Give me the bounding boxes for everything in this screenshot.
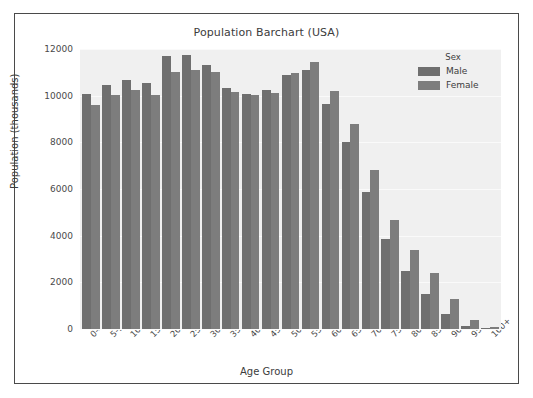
x-tick-label: 100+ xyxy=(489,332,496,339)
bar-male[interactable] xyxy=(302,70,311,329)
x-tick-label: 70-74 xyxy=(369,332,376,339)
y-tick-label: 0 xyxy=(29,324,73,334)
bar-group xyxy=(380,49,400,329)
y-tick-label: 4000 xyxy=(29,231,73,241)
bar-male[interactable] xyxy=(421,294,430,329)
bar-male[interactable] xyxy=(262,90,271,329)
y-axis-label: Population (thousands) xyxy=(9,74,20,189)
figure-panel: Population Barchart (USA) Population (th… xyxy=(14,13,519,384)
bar-female[interactable] xyxy=(390,220,399,329)
gridline xyxy=(80,329,501,330)
bar-male[interactable] xyxy=(441,314,450,329)
bar-group xyxy=(101,49,121,329)
bar-group xyxy=(360,49,380,329)
legend-swatch-female xyxy=(418,81,440,90)
x-tick-label: 80-84 xyxy=(409,332,416,339)
x-tick-label: 40-44 xyxy=(248,332,255,339)
x-tick-label: 50-54 xyxy=(289,332,296,339)
bar-male[interactable] xyxy=(282,75,291,329)
bar-female[interactable] xyxy=(231,92,240,329)
bar-male[interactable] xyxy=(362,192,371,329)
bar-male[interactable] xyxy=(461,326,470,330)
bar-male[interactable] xyxy=(242,94,251,329)
chart-title: Population Barchart (USA) xyxy=(15,26,518,39)
x-tick-label: 65-69 xyxy=(349,332,356,339)
x-tick-label: 35-39 xyxy=(228,332,235,339)
bar-male[interactable] xyxy=(342,142,351,329)
x-tick-label: 85-89 xyxy=(429,332,436,339)
bar-group xyxy=(281,49,301,329)
bar-male[interactable] xyxy=(202,65,211,329)
bar-group xyxy=(201,49,221,329)
legend-item-female[interactable]: Female xyxy=(418,80,504,90)
bar-group xyxy=(241,49,261,329)
x-tick-label: 10-14 xyxy=(128,332,135,339)
x-tick-label: 95-99 xyxy=(469,332,476,339)
bar-female[interactable] xyxy=(330,91,339,329)
x-tick-label: 25-29 xyxy=(188,332,195,339)
legend-item-male[interactable]: Male xyxy=(418,66,504,76)
x-tick-label: 55-59 xyxy=(309,332,316,339)
bar-female[interactable] xyxy=(490,327,499,329)
x-tick-label: 0-4 xyxy=(88,332,95,339)
bar-female[interactable] xyxy=(291,73,300,329)
bar-female[interactable] xyxy=(91,105,100,329)
bar-male[interactable] xyxy=(481,328,490,329)
x-axis-label: Age Group xyxy=(15,366,518,377)
bar-female[interactable] xyxy=(211,72,220,329)
x-tick-label: 75-79 xyxy=(389,332,396,339)
legend-title: Sex xyxy=(418,52,504,62)
bar-female[interactable] xyxy=(191,70,200,329)
bar-female[interactable] xyxy=(450,299,459,329)
bar-female[interactable] xyxy=(410,250,419,329)
x-tick-label: 60-64 xyxy=(329,332,336,339)
bar-group xyxy=(320,49,340,329)
bar-male[interactable] xyxy=(401,271,410,329)
x-tick-label: 5-9 xyxy=(108,332,115,339)
bar-female[interactable] xyxy=(370,170,379,329)
bar-group xyxy=(300,49,320,329)
bar-male[interactable] xyxy=(142,83,151,329)
bar-female[interactable] xyxy=(251,95,260,330)
bar-female[interactable] xyxy=(271,93,280,329)
bar-male[interactable] xyxy=(222,88,231,329)
bar-group xyxy=(181,49,201,329)
legend-label: Male xyxy=(446,66,467,76)
bar-group xyxy=(161,49,181,329)
x-tick-label: 90-94 xyxy=(449,332,456,339)
bar-group xyxy=(81,49,101,329)
bar-female[interactable] xyxy=(111,95,120,329)
bar-group xyxy=(121,49,141,329)
legend-swatch-male xyxy=(418,67,440,76)
bar-group xyxy=(221,49,241,329)
y-tick-label: 10000 xyxy=(29,91,73,101)
y-tick-label: 2000 xyxy=(29,277,73,287)
bar-female[interactable] xyxy=(350,124,359,329)
y-tick-label: 8000 xyxy=(29,137,73,147)
bar-female[interactable] xyxy=(131,90,140,329)
bar-female[interactable] xyxy=(430,273,439,329)
x-tick-label: 45-49 xyxy=(268,332,275,339)
bar-male[interactable] xyxy=(162,56,171,329)
bar-male[interactable] xyxy=(122,80,131,329)
bar-male[interactable] xyxy=(381,239,390,329)
legend: Sex MaleFemale xyxy=(418,52,504,94)
bar-female[interactable] xyxy=(310,62,319,329)
legend-entries: MaleFemale xyxy=(418,66,504,90)
legend-label: Female xyxy=(446,80,479,90)
bar-female[interactable] xyxy=(171,72,180,329)
x-tick-label: 30-34 xyxy=(208,332,215,339)
bar-male[interactable] xyxy=(102,85,111,329)
bar-male[interactable] xyxy=(322,104,331,329)
bar-male[interactable] xyxy=(82,94,91,329)
x-tick-label: 20-24 xyxy=(168,332,175,339)
y-tick-label: 12000 xyxy=(29,44,73,54)
bar-female[interactable] xyxy=(470,320,479,329)
y-tick-label: 6000 xyxy=(29,184,73,194)
bar-group xyxy=(141,49,161,329)
bar-group xyxy=(340,49,360,329)
bar-female[interactable] xyxy=(151,95,160,330)
bar-group xyxy=(261,49,281,329)
bar-male[interactable] xyxy=(182,55,191,329)
x-tick-label: 15-19 xyxy=(148,332,155,339)
